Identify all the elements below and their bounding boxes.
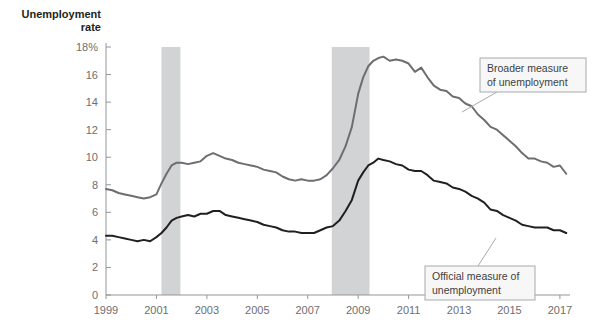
x-tick-label: 2003 (195, 304, 219, 316)
y-tick-label: 8 (92, 179, 98, 191)
x-tick-label: 2011 (397, 304, 421, 316)
recession-2001 (161, 47, 180, 295)
unemployment-rate-chart: 024681012141618% 19992001200320052007200… (0, 0, 600, 329)
y-axis-title: Unemploymentrate (22, 8, 102, 33)
chart-canvas: 024681012141618% 19992001200320052007200… (0, 0, 600, 329)
y-tick-label: 18% (76, 41, 98, 53)
x-tick-label: 2001 (144, 304, 168, 316)
callout-text-line: unemployment (432, 284, 501, 296)
x-tick-label: 2017 (548, 304, 572, 316)
callout-text-line: Official measure of (432, 270, 519, 282)
y-tick-label: 14 (86, 96, 98, 108)
x-tick-label: 2005 (245, 304, 269, 316)
y-axis-title-line: rate (81, 21, 101, 33)
y-tick-label: 10 (86, 151, 98, 163)
x-tick-label: 2013 (447, 304, 471, 316)
callout-leader-line (462, 92, 497, 112)
y-tick-label: 0 (92, 289, 98, 301)
callout-text-line: of unemployment (487, 76, 568, 88)
y-axis-title-line: Unemployment (22, 8, 102, 20)
callout-leader-line (478, 238, 496, 266)
y-tick-label: 12 (86, 124, 98, 136)
x-tick-label: 1999 (94, 304, 118, 316)
x-tick-label: 2015 (497, 304, 521, 316)
y-tick-label: 16 (86, 69, 98, 81)
x-tick-label: 2007 (295, 304, 319, 316)
y-tick-label: 6 (92, 206, 98, 218)
callout-text-line: Broader measure (487, 62, 568, 74)
x-tick-label: 2009 (346, 304, 370, 316)
y-tick-label: 4 (92, 234, 98, 246)
y-tick-label: 2 (92, 261, 98, 273)
